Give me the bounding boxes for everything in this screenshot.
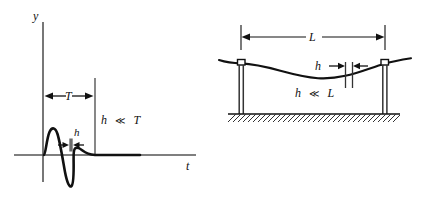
pulse-waveform-panel: y t T — [0, 0, 211, 202]
period-arrowhead-right — [85, 93, 94, 100]
span-dimension: L — [241, 25, 385, 50]
sag-arrowhead-right — [353, 63, 360, 69]
y-axis-label: y — [32, 9, 39, 23]
tower-right — [381, 60, 389, 115]
tower-left-cap — [238, 60, 246, 66]
tower-right-cap — [381, 60, 389, 66]
t-axis-label: t — [186, 159, 190, 173]
inequality-lhs: h — [295, 86, 301, 100]
pulse-waveform-svg: y t T — [0, 0, 211, 202]
period-dimension: T — [45, 89, 94, 103]
inequality-operator-icon: ≪ — [115, 115, 125, 126]
suspension-cable-panel: L — [211, 0, 422, 202]
period-arrowhead-left — [45, 93, 54, 100]
inequality-operator-icon: ≪ — [309, 88, 319, 99]
tower-left — [238, 60, 246, 115]
period-label: T — [65, 89, 73, 103]
pulse-width-arrowhead-left — [63, 142, 70, 148]
ground-hatching — [228, 114, 400, 122]
inequality-h-ll-L-text: h ≪ L — [295, 83, 334, 100]
sag-label: h — [315, 59, 321, 73]
inequality-lhs: h — [101, 113, 107, 127]
pulse-width-label: h — [74, 126, 80, 138]
sag-arrowhead-left — [338, 63, 345, 69]
figure-root: y t T — [0, 0, 422, 202]
inequality-h-ll-T: h ≪ T — [101, 110, 141, 127]
span-label: L — [308, 30, 316, 44]
inequality-rhs: T — [133, 113, 141, 127]
pulse-waveform-curve — [44, 128, 140, 186]
span-arrowhead-right — [376, 34, 385, 41]
suspension-cable-svg: L — [211, 0, 422, 202]
inequality-rhs: L — [326, 86, 334, 100]
pulse-width-bar — [69, 139, 72, 152]
inequality-h-ll-T-text: h ≪ T — [101, 110, 141, 127]
inequality-h-ll-L: h ≪ L — [295, 83, 334, 100]
span-arrowhead-left — [242, 34, 251, 41]
ground — [228, 114, 400, 122]
